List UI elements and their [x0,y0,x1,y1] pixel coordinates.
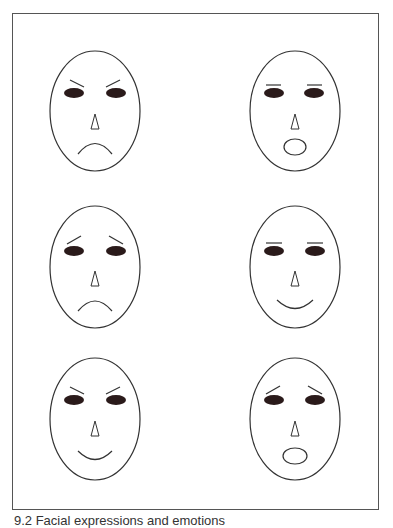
right-eye [106,88,126,98]
mouth-open [284,139,306,155]
right-eye [305,395,325,405]
face-outline [50,358,140,480]
right-eye [305,246,325,256]
face-outline [50,51,140,171]
left-eye [64,246,84,256]
face-outline [50,206,140,328]
left-eye [64,395,84,405]
face-outline [250,206,340,328]
left-eyebrow [266,386,280,394]
face-sad [50,206,140,328]
right-eyebrow [106,80,120,87]
right-eye [304,88,324,98]
mouth-open [283,448,307,464]
face-fearful [250,358,340,480]
nose [291,271,299,286]
nose [291,114,299,129]
mouth-frown [78,301,112,311]
face-angry-frown [50,51,140,171]
nose [91,271,99,286]
face-outline [250,51,340,171]
left-eye [64,88,84,98]
face-outline [250,358,340,480]
face-surprised [250,51,340,171]
nose [91,114,99,129]
nose [91,421,99,436]
face-angry-smile [50,358,140,480]
right-eye [106,246,126,256]
right-eye [106,395,126,405]
left-eyebrow [67,236,81,244]
mouth-smile [277,300,313,309]
nose [291,421,299,436]
right-eyebrow [308,386,322,394]
left-eye [264,395,284,405]
mouth-frown [78,144,112,155]
mouth-smile [78,451,112,460]
left-eyebrow [70,387,84,394]
left-eye [264,246,284,256]
left-eyebrow [70,80,84,87]
right-eyebrow [109,236,123,244]
figure-caption: 9.2 Facial expressions and emotions [14,513,225,528]
face-happy [250,206,340,328]
left-eye [264,88,284,98]
right-eyebrow [106,387,120,394]
